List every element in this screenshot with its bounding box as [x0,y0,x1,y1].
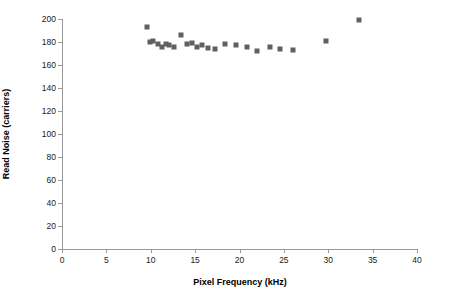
data-point-marker [178,33,183,38]
data-point-marker [244,44,249,49]
y-axis-tick-label: 120 [42,107,56,116]
x-axis-tick [328,249,329,253]
data-point-marker [145,25,150,30]
data-point-marker [267,44,272,49]
data-point-marker [324,38,329,43]
y-axis-tick-label: 100 [42,130,56,139]
y-axis-tick-label: 0 [51,245,56,254]
y-axis-tick-label: 200 [42,15,56,24]
x-axis-tick-label: 10 [146,256,155,265]
x-axis-tick-label: 5 [104,256,109,265]
data-point-marker [171,44,176,49]
y-axis-tick-label: 20 [47,222,56,231]
x-axis-tick-label: 35 [368,256,377,265]
y-axis-title: Read Noise (carriers) [1,89,11,180]
data-point-marker [200,43,205,48]
x-axis-tick [106,249,107,253]
y-axis-tick-label: 40 [47,199,56,208]
y-axis-tick-label: 160 [42,61,56,70]
x-axis-tick [195,249,196,253]
data-point-marker [278,46,283,51]
x-axis-tick [284,249,285,253]
x-axis-line: 0510152025303540 [62,249,418,250]
y-axis-tick-label: 80 [47,153,56,162]
x-axis-tick-label: 0 [60,256,65,265]
x-axis-tick-label: 30 [324,256,333,265]
data-point-marker [233,43,238,48]
y-axis-tick-label: 60 [47,176,56,185]
x-axis-title: Pixel Frequency (kHz) [62,277,418,287]
scatter-chart-figure: Read Noise (carriers) Pixel Frequency (k… [0,0,466,303]
x-axis-tick [417,249,418,253]
data-point-marker [189,41,194,46]
x-axis-tick-label: 40 [412,256,421,265]
data-point-marker [212,46,217,51]
x-axis-tick [62,249,63,253]
x-axis-tick-label: 15 [190,256,199,265]
data-point-marker [255,49,260,54]
x-axis-tick [151,249,152,253]
data-point-marker [223,42,228,47]
data-point-marker [290,48,295,53]
x-axis-tick-label: 20 [235,256,244,265]
x-axis-tick-label: 25 [279,256,288,265]
data-point-marker [194,44,199,49]
y-axis-tick-label: 140 [42,84,56,93]
x-axis-tick [373,249,374,253]
data-point-marker [205,45,210,50]
y-axis-tick-label: 180 [42,38,56,47]
data-point-marker [357,18,362,23]
x-axis-tick [240,249,241,253]
plot-area [62,19,417,249]
